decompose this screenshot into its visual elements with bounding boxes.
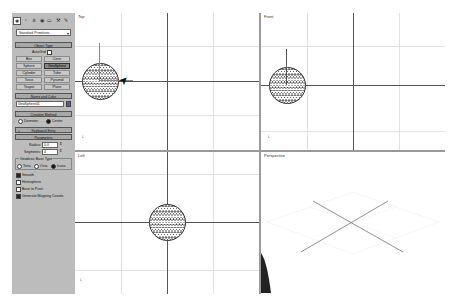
object-color-swatch[interactable] xyxy=(66,101,71,107)
geosphere-partial-object[interactable] xyxy=(261,253,275,293)
rollout-title: Creation Method xyxy=(31,113,57,117)
checkbox[interactable] xyxy=(16,187,21,192)
grid-axis-z xyxy=(353,13,354,150)
group-label: Geodesic Base Type xyxy=(19,157,53,161)
checkbox[interactable] xyxy=(16,173,21,178)
octa-radio[interactable]: Octa xyxy=(34,164,47,169)
parameters-rollout[interactable]: - Parameters xyxy=(15,134,72,140)
box-button[interactable]: Box xyxy=(16,56,42,62)
radio-button[interactable] xyxy=(18,119,23,124)
hemisphere-checkbox[interactable]: Hemisphere xyxy=(16,180,41,185)
motion-tab-icon[interactable]: ◉ xyxy=(38,17,45,24)
viewport-top[interactable]: Top ➤ └ xyxy=(75,13,259,150)
gizmo-z-axis xyxy=(286,49,287,85)
object-name-input[interactable]: GeoSphere01 xyxy=(16,101,64,107)
base-to-pivot-checkbox[interactable]: Base to Pivot xyxy=(16,187,43,192)
rollout-title: Name and Color xyxy=(31,95,56,99)
creation-method-rollout[interactable]: - Creation Method xyxy=(15,111,72,117)
utilities-tab-icon[interactable]: ⚒ xyxy=(54,17,61,24)
checkbox-label: Base to Pivot xyxy=(22,187,43,191)
collapse-icon: - xyxy=(18,94,19,100)
tube-button[interactable]: Tube xyxy=(44,70,70,76)
display-tab-icon[interactable]: ▭ xyxy=(46,17,53,24)
category-dropdown-value: Standard Primitives xyxy=(19,31,49,35)
radio-label: Icosa xyxy=(57,164,65,168)
viewport-left[interactable]: Left └ xyxy=(75,152,259,294)
checkbox-label: Hemisphere xyxy=(22,180,41,184)
command-panel: ✱ ◔ ⋔ ◉ ▭ ⚒ ✎ Standard Primitives ▾ - Ob… xyxy=(12,13,76,294)
rollout-title: Object Type xyxy=(34,44,53,48)
autogrid-checkbox[interactable]: AutoGrid xyxy=(32,50,53,55)
cone-button[interactable]: Cone xyxy=(44,56,70,62)
pyramid-button[interactable]: Pyramid xyxy=(44,77,70,83)
autogrid-check[interactable] xyxy=(47,50,52,55)
geosphere-object[interactable] xyxy=(82,63,119,100)
command-panel-tabs: ✱ ◔ ⋔ ◉ ▭ ⚒ ✎ xyxy=(13,16,74,25)
geosphere-object[interactable] xyxy=(269,67,306,104)
plane-button[interactable]: Plane xyxy=(44,84,70,90)
checkbox[interactable] xyxy=(16,180,21,185)
create-tab-icon[interactable]: ✱ xyxy=(13,17,21,25)
axis-tripod-icon: └ xyxy=(267,135,270,140)
collapse-icon: - xyxy=(18,43,19,49)
modify-tab-icon[interactable]: ◔ xyxy=(22,17,29,24)
geodesic-base-type-group: Geodesic Base Type Tetra Octa Icosa xyxy=(15,158,72,170)
viewport-perspective[interactable]: Perspective xyxy=(261,152,445,294)
radio-button[interactable] xyxy=(34,164,39,169)
radio-button[interactable] xyxy=(17,164,22,169)
sphere-button[interactable]: Sphere xyxy=(16,63,42,69)
rollout-title: Keyboard Entry xyxy=(31,129,55,133)
rollout-title: Parameters xyxy=(34,136,52,140)
collapse-icon: - xyxy=(18,135,19,141)
collapse-icon: - xyxy=(18,112,19,118)
torus-button[interactable]: Torus xyxy=(16,77,42,83)
viewport-area: Top ➤ └ Front └ Left └ Perspective xyxy=(75,13,445,294)
viewport-front[interactable]: Front └ xyxy=(261,13,445,150)
tetra-radio[interactable]: Tetra xyxy=(17,164,31,169)
generate-mapping-coords-checkbox[interactable]: Generate Mapping Coords. xyxy=(16,194,64,199)
keyboard-entry-rollout[interactable]: + Keyboard Entry xyxy=(15,127,72,133)
radius-spinner-icon[interactable]: ⇕ xyxy=(59,142,62,146)
segments-spinner-icon[interactable]: ⇕ xyxy=(59,149,62,153)
diameter-radio[interactable]: Diameter xyxy=(18,119,38,124)
teapot-button[interactable]: Teapot xyxy=(16,84,42,90)
systems-tab-icon[interactable]: ✎ xyxy=(62,17,69,24)
viewport-label[interactable]: Top xyxy=(78,14,84,19)
radius-input[interactable]: 0.0 xyxy=(42,142,58,148)
geosphere-button[interactable]: GeoSphere xyxy=(44,63,70,69)
radio-label: Tetra xyxy=(23,164,31,168)
checkbox[interactable] xyxy=(16,194,21,199)
radio-button[interactable] xyxy=(51,164,56,169)
viewport-label[interactable]: Left xyxy=(78,153,85,158)
smooth-checkbox[interactable]: Smooth xyxy=(16,173,34,178)
checkbox-label: Smooth xyxy=(22,173,34,177)
axis-tripod-icon: └ xyxy=(81,135,84,140)
hierarchy-tab-icon[interactable]: ⋔ xyxy=(30,17,37,24)
perspective-grid xyxy=(261,152,445,294)
object-type-rollout[interactable]: - Object Type xyxy=(15,42,72,48)
segments-label: Segments: xyxy=(24,150,41,154)
viewport-label[interactable]: Front xyxy=(264,14,273,19)
geosphere-object[interactable] xyxy=(149,204,186,241)
autogrid-label: AutoGrid xyxy=(32,50,46,54)
cylinder-button[interactable]: Cylinder xyxy=(16,70,42,76)
radius-label: Radius: xyxy=(29,143,41,147)
radio-label: Octa xyxy=(40,164,47,168)
radio-label: Center xyxy=(52,119,63,123)
center-radio[interactable]: Center xyxy=(46,119,63,124)
chevron-down-icon: ▾ xyxy=(67,30,69,37)
checkbox-label: Generate Mapping Coords. xyxy=(22,194,64,198)
segments-input[interactable]: 4 xyxy=(42,149,58,155)
name-and-color-rollout[interactable]: - Name and Color xyxy=(15,93,72,99)
axis-tripod-icon: └ xyxy=(79,278,82,283)
category-dropdown[interactable]: Standard Primitives ▾ xyxy=(16,29,71,36)
radio-label: Diameter xyxy=(24,119,38,123)
gizmo-y-axis xyxy=(99,43,100,81)
radio-button[interactable] xyxy=(46,119,51,124)
icosa-radio[interactable]: Icosa xyxy=(51,164,65,169)
